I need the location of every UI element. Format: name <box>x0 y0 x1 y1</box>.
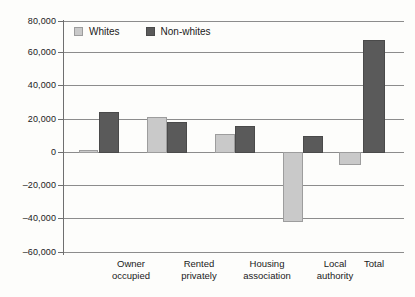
bar-whites-owner-occupied <box>79 150 98 153</box>
y-axis-label-20000: 20,000 <box>4 114 56 124</box>
x-axis-label-total: Total <box>318 258 415 270</box>
bar-whites-housing-association <box>215 134 235 153</box>
legend-label-whites: Whites <box>89 26 120 37</box>
gridline-minus-40000 <box>63 218 404 219</box>
y-tick-20000 <box>58 119 63 120</box>
y-axis-labels: 80,000 60,000 40,000 20,000 0 –20,000 –4… <box>0 0 56 297</box>
legend-entry-whites: Whites <box>74 26 120 37</box>
gridline-minus-60000 <box>63 252 404 253</box>
bar-nonwhites-total <box>363 40 385 153</box>
y-tick-minus-60000 <box>58 252 63 253</box>
bar-nonwhites-owner-occupied <box>99 112 119 153</box>
y-tick-0 <box>58 152 63 153</box>
chart-legend: Whites Non-whites <box>74 26 211 37</box>
bar-whites-rented-privately <box>147 117 167 153</box>
y-tick-60000 <box>58 52 63 53</box>
gridline-minus-20000 <box>63 185 404 186</box>
legend-swatch-whites-icon <box>74 27 83 36</box>
y-axis-label-80000: 80,000 <box>4 16 56 26</box>
y-axis-label-0: 0 <box>4 147 56 157</box>
x-axis-label-total-line1: Total <box>318 258 415 270</box>
gridline-60000 <box>63 52 404 53</box>
y-axis-label-minus-60000: –60,000 <box>4 247 56 257</box>
y-tick-80000 <box>58 21 63 22</box>
legend-entry-nonwhites: Non-whites <box>146 26 211 37</box>
y-axis-label-40000: 40,000 <box>4 80 56 90</box>
y-axis-label-minus-40000: –40,000 <box>4 213 56 223</box>
bar-nonwhites-housing-association <box>235 126 255 153</box>
gridline-80000 <box>63 21 404 22</box>
y-axis-label-60000: 60,000 <box>4 47 56 57</box>
bar-whites-total <box>339 152 361 165</box>
x-axis-label-local-authority-line2: authority <box>279 270 391 282</box>
y-tick-minus-40000 <box>58 218 63 219</box>
plot-area <box>63 21 404 254</box>
bar-whites-local-authority <box>283 152 303 222</box>
y-tick-40000 <box>58 85 63 86</box>
bar-nonwhites-local-authority <box>303 136 323 153</box>
gridline-40000 <box>63 85 404 86</box>
bar-nonwhites-rented-privately <box>167 122 187 153</box>
x-axis-labels: Owner occupied Rented privately Housing … <box>63 258 404 296</box>
bar-chart-figure: 80,000 60,000 40,000 20,000 0 –20,000 –4… <box>0 0 415 297</box>
legend-label-nonwhites: Non-whites <box>161 26 211 37</box>
y-axis-line <box>63 20 64 255</box>
legend-swatch-nonwhites-icon <box>146 27 155 36</box>
y-axis-label-minus-20000: –20,000 <box>4 180 56 190</box>
y-tick-minus-20000 <box>58 185 63 186</box>
